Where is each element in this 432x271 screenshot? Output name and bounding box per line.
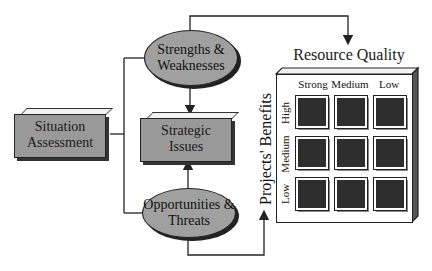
matrix-cell-medium-medium [335,137,367,169]
matrix-cell-high-strong [296,96,328,128]
row-header-high: High [279,91,291,135]
row-header-low: Low [279,172,291,216]
matrix-cell-low-strong [296,178,328,210]
column-header-low: Low [369,78,409,90]
matrix-cell-medium-strong [296,137,328,169]
matrix-cell-high-low [374,96,406,128]
column-header-strong: Strong [293,78,333,90]
matrix-cell-low-medium [335,178,367,210]
matrix-cell-high-medium [335,96,367,128]
row-header-medium: Medium [279,132,291,176]
column-header-medium: Medium [330,78,370,90]
matrix-cell-low-low [374,178,406,210]
matrix-cell-medium-low [374,137,406,169]
